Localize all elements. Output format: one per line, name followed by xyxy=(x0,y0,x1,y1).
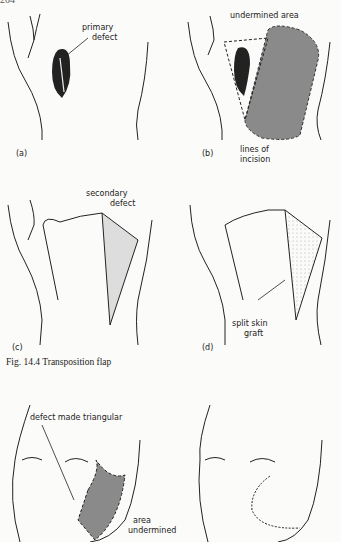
svg-text:defect: defect xyxy=(110,199,135,208)
svg-text:(c): (c) xyxy=(12,343,23,352)
svg-text:primary: primary xyxy=(82,23,114,32)
panel-d: split skin graft (d) xyxy=(190,205,330,352)
figure-illustrations: primary defect (a) undermined area lines… xyxy=(0,0,341,542)
panel-b: undermined area lines of incision (b) xyxy=(188,11,330,164)
svg-text:(d): (d) xyxy=(202,343,213,352)
svg-text:graft: graft xyxy=(244,329,263,338)
face-right xyxy=(199,405,322,542)
svg-text:defect made triangular: defect made triangular xyxy=(30,413,123,422)
svg-text:undermined: undermined xyxy=(128,526,176,535)
face-left: defect made triangular area undermined xyxy=(12,405,176,542)
svg-text:area: area xyxy=(133,516,151,525)
figure-caption: Fig. 14.4 Transposition flap xyxy=(6,357,111,367)
svg-text:secondary: secondary xyxy=(86,189,128,198)
svg-text:incision: incision xyxy=(240,155,270,164)
svg-text:(a): (a) xyxy=(16,149,27,158)
panel-a: primary defect (a) xyxy=(8,14,148,158)
svg-text:undermined area: undermined area xyxy=(230,11,299,20)
svg-text:split skin: split skin xyxy=(232,319,267,328)
svg-text:lines of: lines of xyxy=(240,145,269,154)
svg-text:(b): (b) xyxy=(202,149,213,158)
svg-text:defect: defect xyxy=(92,33,117,42)
panel-c: secondary defect (c) xyxy=(8,189,152,352)
